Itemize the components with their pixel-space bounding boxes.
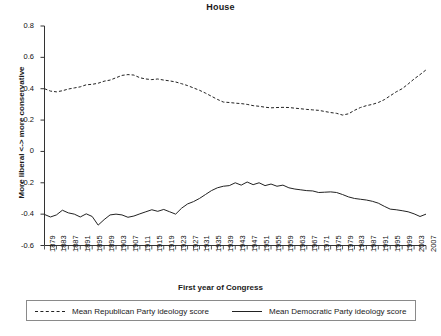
x-tick-label: 1879 [48, 235, 57, 252]
x-tick-label: 1975 [334, 235, 343, 252]
legend-item-democratic: Mean Democratic Party ideology score [232, 305, 406, 318]
x-tick-label: 1907 [131, 235, 140, 252]
x-tick-label: 1955 [274, 235, 283, 252]
x-tick-label: 1899 [107, 235, 116, 252]
chart-legend: Mean Republican Party ideology score Mea… [26, 300, 416, 321]
x-tick-label: 1963 [298, 235, 307, 252]
y-tick-label: -0.4 [8, 209, 34, 218]
plot-canvas [0, 0, 441, 336]
y-tick-label: -0.6 [8, 241, 34, 250]
x-tick-label: 1915 [155, 235, 164, 252]
x-tick-label: 1951 [262, 235, 271, 252]
data-series-group [45, 70, 427, 225]
x-tick-label: 1887 [71, 235, 80, 252]
axes [45, 26, 427, 246]
y-tick-label: -0.2 [8, 178, 34, 187]
x-tick-label: 1919 [167, 235, 176, 252]
x-tick-label: 1959 [286, 235, 295, 252]
dashed-line-icon [35, 311, 65, 312]
x-tick-label: 1979 [346, 235, 355, 252]
solid-line-icon [232, 311, 262, 312]
x-tick-label: 1923 [179, 235, 188, 252]
x-tick-label: 1911 [143, 235, 152, 251]
x-tick-label: 1939 [226, 235, 235, 252]
x-tick-label: 1987 [369, 235, 378, 252]
chart-figure: House More liberal <-> more conservative… [0, 0, 441, 336]
x-tick-label: 1967 [310, 235, 319, 252]
x-tick-label: 1999 [405, 235, 414, 252]
x-tick-label: 1903 [119, 235, 128, 252]
x-tick-label: 1943 [238, 235, 247, 252]
series-line-democratic [45, 182, 427, 225]
x-tick-label: 1931 [202, 235, 211, 252]
y-tick-label: 0 [8, 146, 34, 155]
x-tick-label: 1891 [83, 235, 92, 252]
y-tick-label: 0.4 [8, 84, 34, 93]
x-tick-label: 1935 [214, 235, 223, 252]
x-tick-label: 2007 [429, 235, 438, 252]
x-tick-label: 2003 [417, 235, 426, 252]
x-tick-label: 1995 [393, 235, 402, 252]
legend-label-democratic: Mean Democratic Party ideology score [269, 307, 406, 316]
legend-item-republican: Mean Republican Party ideology score [35, 305, 209, 318]
y-axis-ticks [41, 26, 45, 246]
y-tick-label: 0.8 [8, 21, 34, 30]
y-tick-label: 0.2 [8, 115, 34, 124]
x-tick-label: 1927 [191, 235, 200, 252]
x-tick-label: 1895 [95, 235, 104, 252]
x-tick-label: 1947 [250, 235, 259, 252]
x-tick-label: 1991 [381, 235, 390, 252]
y-tick-label: 0.6 [8, 52, 34, 61]
x-tick-label: 1983 [357, 235, 366, 252]
series-line-republican [45, 70, 427, 115]
x-tick-label: 1971 [322, 235, 331, 252]
legend-label-republican: Mean Republican Party ideology score [72, 307, 209, 316]
x-tick-label: 1883 [59, 235, 68, 252]
